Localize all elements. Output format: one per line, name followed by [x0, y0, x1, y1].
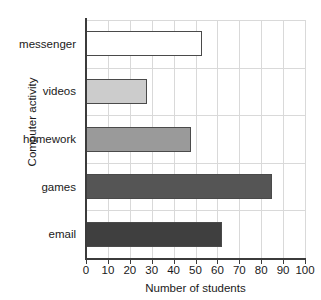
- category-label-videos: videos: [43, 85, 76, 97]
- gridline-vertical: [261, 20, 262, 258]
- x-tick-label: 30: [145, 264, 158, 276]
- gridline-horizontal: [86, 163, 305, 164]
- x-tick-label: 70: [233, 264, 246, 276]
- gridline-horizontal: [86, 68, 305, 69]
- x-tick-label: 90: [277, 264, 290, 276]
- y-axis-line: [85, 18, 87, 260]
- category-label-group: messengervideoshomeworkgamesemail: [0, 20, 82, 258]
- bar-videos: [86, 79, 147, 104]
- category-label-homework: homework: [23, 133, 76, 145]
- x-tick-label: 20: [123, 264, 136, 276]
- gridline-horizontal: [86, 210, 305, 211]
- x-tick-label: 10: [101, 264, 114, 276]
- x-tick-label-group: 0102030405060708090100: [0, 264, 321, 280]
- bar-games: [86, 174, 272, 199]
- gridline-horizontal: [86, 115, 305, 116]
- x-tick-label: 0: [83, 264, 89, 276]
- gridline-vertical: [305, 20, 306, 258]
- x-tick-label: 40: [167, 264, 180, 276]
- x-tick-label: 100: [295, 264, 314, 276]
- gridline-horizontal: [86, 20, 305, 21]
- category-label-email: email: [49, 228, 76, 240]
- x-tick-label: 60: [211, 264, 224, 276]
- category-label-games: games: [41, 181, 76, 193]
- x-tick-label: 50: [189, 264, 202, 276]
- category-label-messenger: messenger: [19, 38, 76, 50]
- plot-area: [86, 20, 305, 258]
- x-axis-title: Number of students: [86, 282, 305, 294]
- bar-homework: [86, 127, 191, 152]
- x-tick-label: 80: [255, 264, 268, 276]
- bar-email: [86, 222, 222, 247]
- gridline-vertical: [283, 20, 284, 258]
- bar-chart: Computer activity messengervideoshomewor…: [0, 0, 321, 300]
- bar-messenger: [86, 31, 202, 56]
- gridline-vertical: [239, 20, 240, 258]
